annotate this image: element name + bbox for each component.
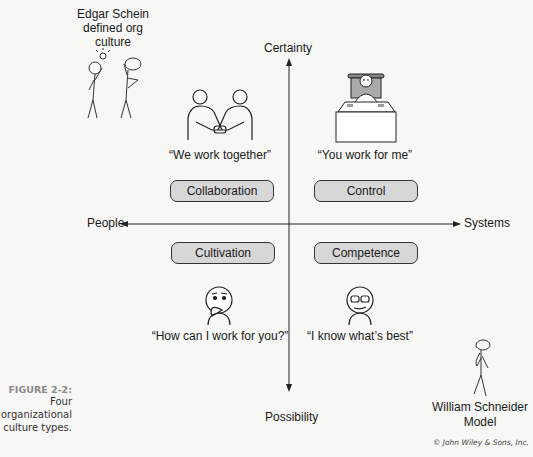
figure-label: FIGURE 2-2:	[0, 384, 72, 395]
thinking-person-icon	[206, 287, 232, 325]
diagram-graphics	[0, 0, 533, 457]
boss-at-desk-icon	[336, 74, 396, 142]
arrow-right-icon	[453, 221, 461, 227]
caption-line-1: Four	[0, 395, 72, 408]
arrow-up-icon	[286, 58, 292, 66]
schneider-line-2: Model	[425, 415, 533, 430]
schein-line-1: Edgar Schein	[75, 7, 151, 21]
schneider-annotation: William Schneider Model	[425, 400, 533, 430]
arrow-down-icon	[286, 384, 292, 392]
figure-caption: FIGURE 2-2: Four organizational culture …	[0, 384, 72, 434]
quadrant-control: Control	[314, 180, 418, 202]
quadrant-collaboration: Collaboration	[170, 180, 274, 202]
axis-label-certainty: Certainty	[264, 41, 312, 55]
schein-line-2: defined org	[75, 21, 151, 35]
quote-cultivation: “How can I work for you?”	[150, 329, 290, 343]
caption-line-2: organizational	[0, 408, 72, 421]
axis-label-possibility: Possibility	[265, 410, 318, 424]
quadrant-competence: Competence	[314, 242, 418, 264]
schneider-figure-icon	[474, 340, 490, 396]
schein-annotation: Edgar Schein defined org culture	[75, 7, 151, 49]
schneider-line-1: William Schneider	[425, 400, 533, 415]
schein-line-3: culture	[75, 35, 151, 49]
quote-collaboration: “We work together”	[160, 148, 280, 162]
horizontal-axis	[120, 221, 461, 227]
lightbulb-icon	[96, 48, 110, 59]
axis-label-people: People	[87, 216, 124, 230]
schein-figures-icon	[88, 48, 141, 118]
glasses-person-icon	[347, 287, 373, 325]
quote-competence: “I know what’s best”	[305, 329, 415, 343]
quote-control: “You work for me”	[315, 148, 415, 162]
axis-label-systems: Systems	[464, 216, 510, 230]
caption-line-3: culture types.	[0, 421, 72, 434]
quadrant-cultivation: Cultivation	[171, 242, 275, 264]
handshake-icon	[188, 90, 252, 140]
copyright-credit: © John Wiley & Sons, Inc.	[425, 438, 529, 447]
